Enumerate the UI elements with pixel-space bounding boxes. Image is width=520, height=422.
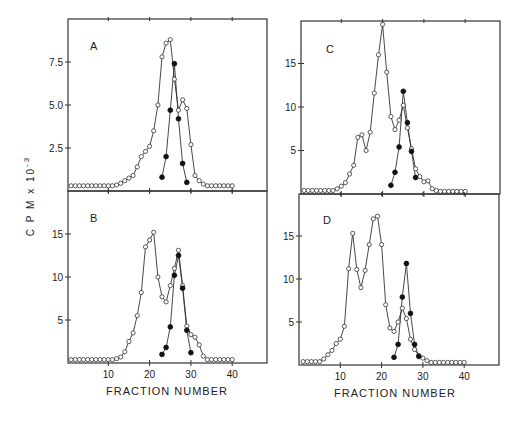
x-axis-label-left: FRACTION NUMBER bbox=[106, 385, 228, 397]
data-point-open bbox=[77, 184, 81, 188]
data-point-filled bbox=[184, 328, 189, 333]
data-point-open bbox=[413, 347, 417, 351]
data-point-open bbox=[454, 360, 458, 364]
series-line-filled bbox=[162, 256, 191, 355]
panel-letter: B bbox=[90, 212, 97, 224]
data-point-open bbox=[135, 314, 139, 318]
data-point-open bbox=[168, 38, 172, 42]
data-point-open bbox=[73, 358, 77, 362]
data-point-filled bbox=[400, 295, 405, 300]
data-point-open bbox=[185, 324, 189, 328]
panel-letter: A bbox=[90, 40, 98, 52]
data-point-filled bbox=[172, 273, 177, 278]
data-point-filled bbox=[392, 355, 397, 360]
data-point-open bbox=[305, 360, 309, 364]
data-point-open bbox=[389, 115, 393, 119]
data-point-open bbox=[164, 300, 168, 304]
data-point-open bbox=[368, 130, 372, 134]
y-axis-label: C P M x 10-3 bbox=[22, 156, 36, 236]
data-point-filled bbox=[405, 120, 410, 125]
data-point-open bbox=[322, 357, 326, 361]
data-point-open bbox=[455, 189, 459, 193]
data-point-open bbox=[152, 230, 156, 234]
data-point-open bbox=[360, 133, 364, 137]
data-point-open bbox=[222, 184, 226, 188]
data-point-open bbox=[127, 339, 131, 343]
data-point-open bbox=[115, 357, 119, 361]
data-point-open bbox=[459, 189, 463, 193]
data-point-filled bbox=[413, 175, 418, 180]
data-point-open bbox=[176, 108, 180, 112]
x-tick-label: 10 bbox=[335, 371, 347, 382]
data-point-open bbox=[168, 284, 172, 288]
data-point-open bbox=[352, 163, 356, 167]
data-point-open bbox=[430, 187, 434, 191]
data-point-open bbox=[343, 181, 347, 185]
data-point-open bbox=[330, 348, 334, 352]
data-point-open bbox=[160, 295, 164, 299]
data-point-open bbox=[363, 268, 367, 272]
data-point-open bbox=[372, 91, 376, 95]
x-tick-label: 30 bbox=[185, 369, 197, 380]
data-point-open bbox=[429, 360, 433, 364]
data-point-filled bbox=[168, 325, 173, 330]
data-point-open bbox=[437, 360, 441, 364]
data-point-open bbox=[90, 184, 94, 188]
data-point-open bbox=[69, 358, 73, 362]
data-point-open bbox=[193, 173, 197, 177]
data-point-open bbox=[127, 176, 131, 180]
data-point-open bbox=[301, 360, 305, 364]
panels: A2.55.07.5B5101510203040C51015D510151020… bbox=[49, 17, 500, 382]
data-point-filled bbox=[397, 145, 402, 150]
data-point-open bbox=[197, 343, 201, 347]
data-point-open bbox=[408, 337, 412, 341]
data-point-open bbox=[388, 326, 392, 330]
data-point-open bbox=[148, 238, 152, 242]
y-tick-label: 10 bbox=[283, 274, 295, 285]
data-point-open bbox=[123, 350, 127, 354]
data-point-open bbox=[306, 188, 310, 192]
data-point-open bbox=[226, 184, 230, 188]
data-point-open bbox=[214, 184, 218, 188]
data-point-open bbox=[86, 184, 90, 188]
series-line-open bbox=[303, 216, 464, 362]
data-point-open bbox=[139, 155, 143, 159]
data-point-open bbox=[376, 53, 380, 57]
data-point-open bbox=[310, 188, 314, 192]
data-point-open bbox=[355, 267, 359, 271]
data-point-open bbox=[323, 188, 327, 192]
data-point-open bbox=[94, 358, 98, 362]
x-tick-label: 40 bbox=[459, 371, 471, 382]
data-point-open bbox=[201, 182, 205, 186]
data-point-open bbox=[123, 179, 127, 183]
data-point-open bbox=[131, 173, 135, 177]
data-point-open bbox=[384, 303, 388, 307]
x-axis-label-right: FRACTION NUMBER bbox=[334, 387, 456, 399]
panel-d: D5101510203040 bbox=[283, 192, 499, 382]
data-point-filled bbox=[176, 253, 181, 258]
data-point-open bbox=[143, 245, 147, 249]
y-tick-label: 15 bbox=[52, 229, 64, 240]
panel-letter: C bbox=[326, 43, 334, 55]
data-point-filled bbox=[401, 89, 406, 94]
data-point-open bbox=[81, 358, 85, 362]
y-tick-label: 5 bbox=[290, 145, 296, 156]
y-tick-label: 15 bbox=[283, 231, 295, 242]
panel-a: A2.55.07.5 bbox=[49, 17, 267, 194]
data-point-open bbox=[392, 329, 396, 333]
data-point-open bbox=[98, 358, 102, 362]
data-point-open bbox=[226, 358, 230, 362]
data-point-filled bbox=[164, 154, 169, 159]
data-point-open bbox=[185, 106, 189, 110]
data-point-open bbox=[115, 183, 119, 187]
data-point-open bbox=[94, 184, 98, 188]
data-point-open bbox=[309, 360, 313, 364]
data-point-open bbox=[371, 217, 375, 221]
data-point-open bbox=[397, 118, 401, 122]
data-point-open bbox=[433, 360, 437, 364]
data-point-open bbox=[446, 360, 450, 364]
data-point-open bbox=[364, 148, 368, 152]
data-point-open bbox=[447, 189, 451, 193]
data-point-open bbox=[334, 341, 338, 345]
data-point-filled bbox=[164, 345, 169, 350]
